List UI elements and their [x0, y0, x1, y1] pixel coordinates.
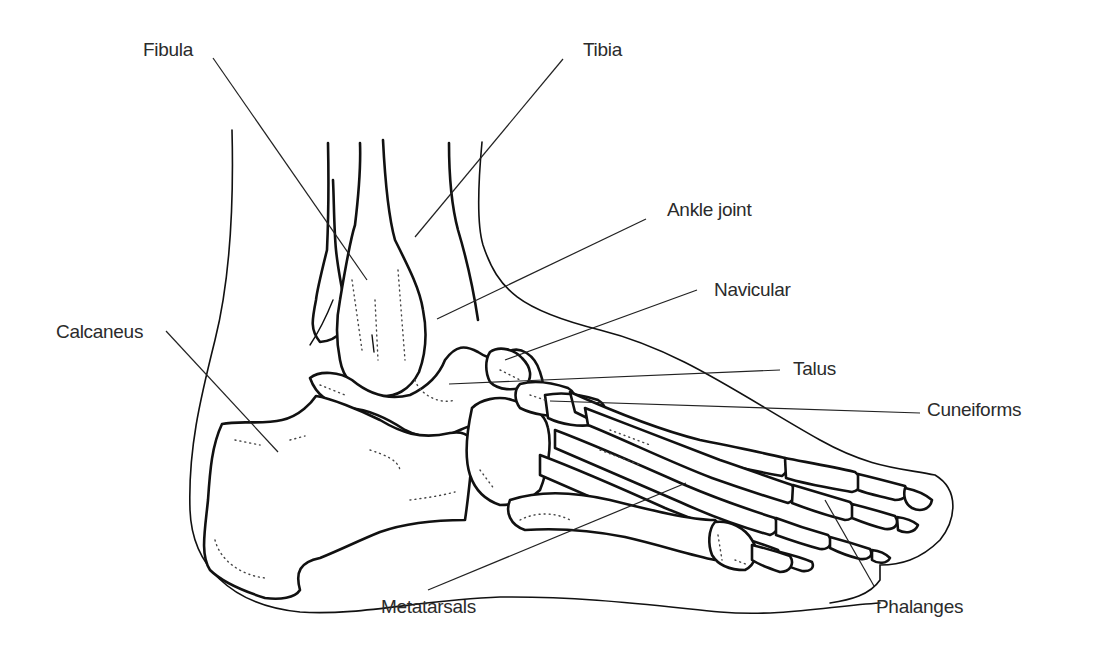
label-talus: Talus — [793, 359, 836, 378]
label-phalanges: Phalanges — [876, 597, 963, 616]
foot-illustration — [0, 0, 1094, 663]
leader-tibia — [415, 59, 563, 237]
label-tibia: Tibia — [583, 40, 622, 59]
label-navicular: Navicular — [714, 280, 791, 299]
label-metatarsals: Metatarsals — [381, 597, 476, 616]
label-fibula: Fibula — [143, 40, 193, 59]
foot-anatomy-diagram: Fibula Tibia Ankle joint Navicular Talus… — [0, 0, 1094, 663]
leader-fibula — [213, 58, 367, 280]
label-ankle-joint: Ankle joint — [667, 200, 751, 219]
leader-navicular — [505, 290, 697, 360]
label-cuneiforms: Cuneiforms — [927, 400, 1021, 419]
label-calcaneus: Calcaneus — [56, 322, 143, 341]
